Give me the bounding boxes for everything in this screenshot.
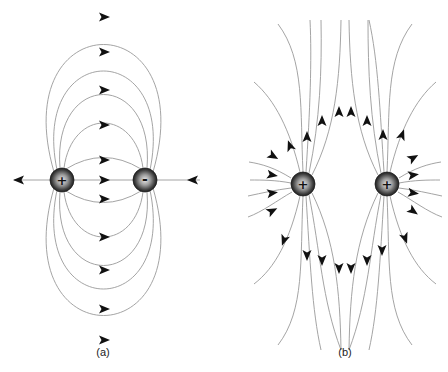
arrow-right-icon	[99, 336, 110, 345]
arrow-right-icon	[266, 170, 278, 181]
arrow-down-icon	[318, 255, 327, 266]
positive-charge-left: +	[291, 172, 315, 196]
arrow-right-icon	[99, 48, 110, 57]
arrow-right-icon	[99, 121, 110, 130]
arrow-up-icon	[347, 106, 356, 117]
arrow-right-icon	[99, 305, 110, 314]
panel-b-caption: (b)	[338, 346, 351, 358]
arrow-up-icon	[318, 115, 327, 126]
arrow-right-icon	[266, 188, 278, 198]
field-arrows-dipole	[13, 13, 198, 345]
arrow-up-icon	[303, 131, 312, 142]
arrow-right-icon	[406, 204, 420, 218]
arrow-right-icon	[265, 204, 279, 217]
arrow-right-icon	[407, 170, 419, 180]
electric-field-figure: + - (a)	[0, 0, 448, 372]
positive-charge: +	[50, 168, 74, 192]
arrow-right-icon	[99, 156, 110, 165]
panel-a-dipole: + - (a)	[13, 13, 200, 359]
arrow-down-icon	[378, 245, 387, 256]
charge-sign: -	[142, 171, 148, 187]
arrow-right-icon	[266, 150, 280, 163]
arrow-right-icon	[99, 13, 110, 22]
arrow-up-icon	[379, 129, 388, 140]
negative-charge: -	[133, 168, 157, 192]
arrow-right-icon	[406, 151, 420, 164]
arrow-up-icon	[396, 128, 408, 141]
arrow-up-icon	[335, 106, 344, 117]
panel-b-like-charges: + + (b)	[248, 20, 442, 358]
arrow-right-icon	[99, 86, 110, 95]
arrow-up-icon	[363, 115, 372, 126]
panel-a-caption: (a)	[96, 346, 109, 358]
field-lines-like-charges	[248, 20, 442, 350]
charge-sign: +	[382, 177, 393, 192]
arrow-right-icon	[99, 266, 110, 275]
positive-charge-right: +	[375, 172, 399, 196]
charge-sign: +	[57, 173, 68, 188]
charge-sign: +	[298, 177, 309, 192]
